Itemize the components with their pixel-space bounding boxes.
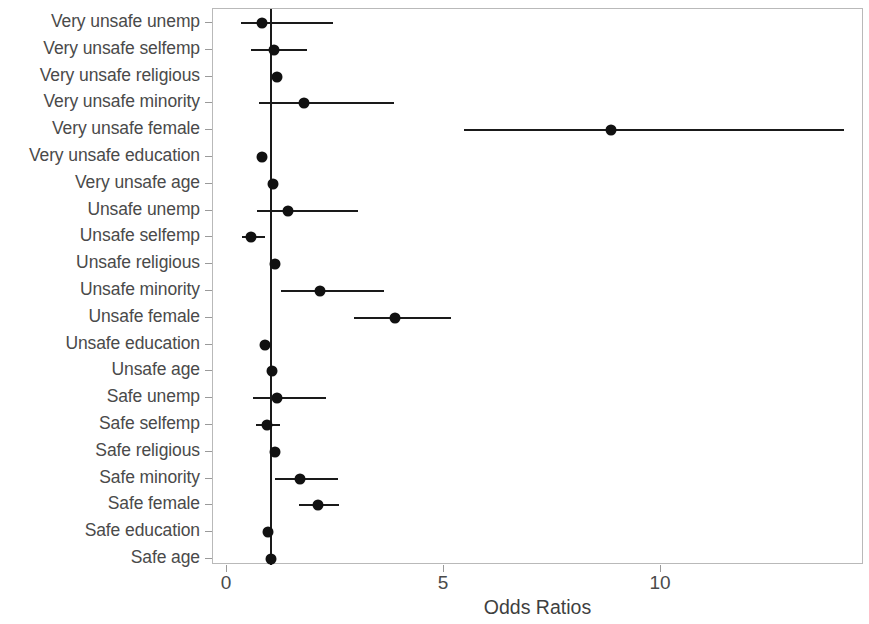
x-axis-tick: [443, 565, 444, 572]
data-point: [268, 44, 279, 55]
data-point: [256, 18, 267, 29]
plot-marks-layer: [213, 9, 862, 563]
y-axis-tick: [205, 397, 212, 398]
data-point: [267, 178, 278, 189]
y-axis-tick: [205, 263, 212, 264]
confidence-interval-line: [253, 397, 326, 399]
y-axis-labels: Very unsafe unempVery unsafe selfempVery…: [0, 0, 200, 624]
y-axis-tick-label: Safe selfemp: [99, 415, 200, 433]
data-point: [261, 420, 272, 431]
data-point: [271, 71, 282, 82]
y-axis-tick-label: Unsafe minority: [80, 281, 200, 299]
y-axis-tick: [205, 76, 212, 77]
y-axis-tick-label: Unsafe unemp: [87, 201, 200, 219]
confidence-interval-line: [464, 129, 844, 131]
data-point: [266, 366, 277, 377]
data-point: [294, 473, 305, 484]
y-axis-tick: [205, 451, 212, 452]
x-axis-tick-label: 0: [221, 573, 232, 592]
x-axis-title: Odds Ratios: [212, 598, 863, 618]
data-point: [282, 205, 293, 216]
data-point: [313, 500, 324, 511]
y-axis-tick-label: Unsafe selfemp: [80, 228, 200, 246]
confidence-interval-line: [259, 102, 394, 104]
y-axis-tick: [205, 102, 212, 103]
confidence-interval-line: [354, 317, 451, 319]
y-axis-tick-label: Safe female: [108, 496, 200, 514]
y-axis-tick: [205, 531, 212, 532]
y-axis-tick: [205, 183, 212, 184]
y-axis-tick-label: Very unsafe selfemp: [43, 40, 200, 58]
y-axis-tick-label: Safe unemp: [107, 388, 200, 406]
data-point: [269, 259, 280, 270]
y-axis-tick: [205, 210, 212, 211]
y-axis-tick: [205, 317, 212, 318]
y-axis-tick-label: Very unsafe religious: [40, 67, 200, 85]
y-axis-tick: [205, 344, 212, 345]
y-axis-tick: [205, 129, 212, 130]
y-axis-tick: [205, 22, 212, 23]
data-point: [269, 446, 280, 457]
y-axis-tick-label: Unsafe female: [88, 308, 200, 326]
y-axis-tick: [205, 156, 212, 157]
y-axis-tick-label: Safe religious: [95, 442, 200, 460]
reference-line: [270, 9, 272, 565]
x-axis-tick: [226, 565, 227, 572]
x-axis-tick-label: 5: [438, 573, 449, 592]
data-point: [259, 339, 270, 350]
y-axis-tick-label: Very unsafe minority: [43, 94, 200, 112]
data-point: [606, 125, 617, 136]
y-axis-tick: [205, 504, 212, 505]
y-axis-tick-label: Very unsafe unemp: [51, 13, 200, 31]
confidence-interval-line: [275, 478, 338, 480]
y-axis-tick-label: Very unsafe education: [29, 147, 200, 165]
y-axis-tick: [205, 478, 212, 479]
plot-panel: [212, 8, 863, 564]
y-axis-tick-label: Very unsafe age: [75, 174, 200, 192]
y-axis-tick: [205, 49, 212, 50]
y-axis-tick-label: Unsafe education: [65, 335, 200, 353]
data-point: [266, 554, 277, 565]
confidence-interval-line: [241, 22, 333, 24]
data-point: [389, 312, 400, 323]
y-axis-tick: [205, 424, 212, 425]
y-axis-tick: [205, 236, 212, 237]
x-axis-tick: [660, 565, 661, 572]
y-axis-tick-label: Safe education: [85, 522, 200, 540]
data-point: [245, 232, 256, 243]
data-point: [256, 152, 267, 163]
data-point: [314, 286, 325, 297]
y-axis-tick-label: Very unsafe female: [52, 120, 200, 138]
y-axis-tick-label: Unsafe age: [111, 362, 200, 380]
y-axis-tick: [205, 370, 212, 371]
x-axis-tick-label: 10: [649, 573, 670, 592]
data-point: [271, 393, 282, 404]
data-point: [263, 527, 274, 538]
y-axis-tick-label: Unsafe religious: [76, 254, 200, 272]
y-axis-tick-label: Safe age: [131, 549, 200, 567]
forest-plot-figure: Very unsafe unempVery unsafe selfempVery…: [0, 0, 869, 624]
y-axis-tick-label: Safe minority: [99, 469, 200, 487]
data-point: [298, 98, 309, 109]
confidence-interval-line: [281, 290, 384, 292]
y-axis-tick: [205, 290, 212, 291]
confidence-interval-line: [257, 210, 358, 212]
y-axis-tick: [205, 558, 212, 559]
